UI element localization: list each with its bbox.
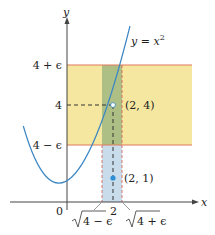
svg-text:4 + ϵ: 4 + ϵ — [137, 215, 166, 228]
origin-label: 0 — [56, 205, 63, 218]
point-2-1 — [110, 175, 115, 180]
epsilon-delta-diagram: y x 0 y = x2 4 + ϵ 4 4 − ϵ (2, 4) (2, 1)… — [0, 0, 215, 235]
curve-label: y = x2 — [130, 33, 165, 48]
delta-strip-lower — [102, 145, 122, 202]
point-2-4-label: (2, 4) — [125, 99, 155, 112]
x-tick-sqrt-4-minus-eps: 4 − ϵ — [72, 203, 112, 228]
x-axis-label: x — [201, 196, 208, 209]
y-axis-label: y — [62, 6, 70, 19]
svg-text:4 − ϵ: 4 − ϵ — [83, 215, 112, 228]
x-tick-sqrt-4-plus-eps: 4 + ϵ — [123, 203, 166, 228]
y-tick-4-minus-eps: 4 − ϵ — [33, 139, 62, 152]
y-tick-4: 4 — [55, 99, 62, 112]
y-tick-4-plus-eps: 4 + ϵ — [33, 59, 62, 72]
point-2-1-label: (2, 1) — [124, 172, 154, 185]
x-axis-arrow-icon — [192, 200, 199, 205]
point-2-4 — [111, 103, 116, 108]
